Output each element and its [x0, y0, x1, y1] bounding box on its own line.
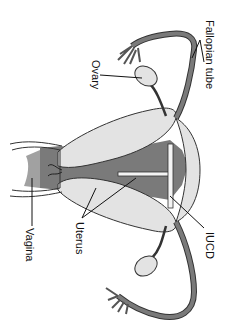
label-ovary: Ovary [90, 60, 102, 90]
reproductive-system-diagram: Fallopian tube Ovary IUCD Uterus Vagina [0, 0, 235, 326]
label-uterus: Uterus [74, 222, 86, 255]
label-fallopian-tube: Fallopian tube [204, 20, 216, 89]
label-iucd: IUCD [204, 232, 216, 259]
fimbriae-upper [118, 46, 140, 64]
ovary-lower [131, 226, 166, 280]
label-vagina: Vagina [24, 228, 36, 262]
